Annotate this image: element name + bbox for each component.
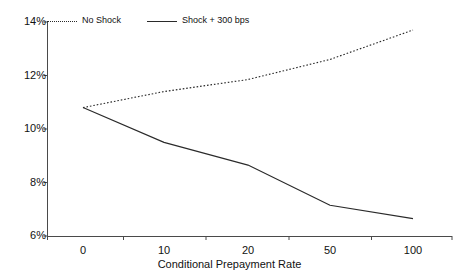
legend-entry-2: Shock + 300 bps (147, 16, 249, 25)
x-axis-labels: 0102050100 (0, 0, 459, 279)
chart-container: 6%8%10%12%14% 0102050100 Conditional Pre… (0, 0, 459, 279)
x-axis-title: Conditional Prepayment Rate (0, 258, 459, 270)
x-tick-label: 20 (218, 244, 278, 256)
legend-line-swatch-icon (147, 17, 177, 25)
x-tick-label: 100 (383, 244, 443, 256)
legend-line-swatch-icon (47, 17, 77, 25)
legend-label: Shock + 300 bps (182, 16, 249, 25)
legend-label: No Shock (82, 16, 121, 25)
x-tick-label: 0 (53, 244, 113, 256)
x-tick-label: 10 (134, 244, 194, 256)
x-tick-label: 50 (300, 244, 360, 256)
chart-legend: No ShockShock + 300 bps (47, 16, 249, 25)
legend-entry-1: No Shock (47, 16, 121, 25)
